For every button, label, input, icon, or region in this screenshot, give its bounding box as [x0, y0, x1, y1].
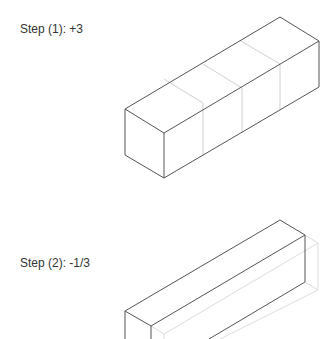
- step-2-edges: [125, 220, 305, 339]
- step-2-box: [125, 220, 318, 339]
- step-1-box: [125, 17, 319, 178]
- step-1-edges: [125, 17, 319, 178]
- diagram-canvas: [0, 0, 334, 339]
